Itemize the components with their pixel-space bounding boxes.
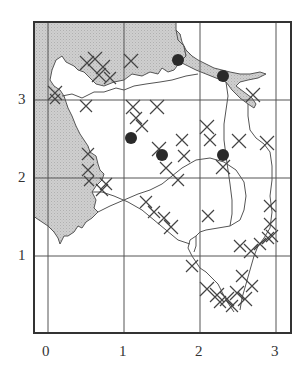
- coastline-north: [62, 74, 198, 98]
- x-tick-3: 3: [271, 344, 279, 359]
- map-canvas: [0, 0, 302, 373]
- shaded-land-northwest: [34, 22, 186, 244]
- marker-4: [156, 149, 168, 161]
- map-figure: 0 1 2 3 1 2 3: [0, 0, 302, 373]
- marker-1: [172, 54, 184, 66]
- y-tick-2: 2: [18, 170, 26, 185]
- marker-3: [125, 132, 137, 144]
- x-tick-0: 0: [42, 344, 50, 359]
- boundary-line-5: [92, 192, 190, 244]
- y-tick-3: 3: [18, 92, 26, 107]
- y-tick-1: 1: [18, 248, 26, 263]
- x-tick-1: 1: [119, 344, 127, 359]
- boundary-line-1: [98, 158, 246, 252]
- x-tick-2: 2: [195, 344, 203, 359]
- marker-2: [217, 70, 229, 82]
- marker-5: [217, 149, 229, 161]
